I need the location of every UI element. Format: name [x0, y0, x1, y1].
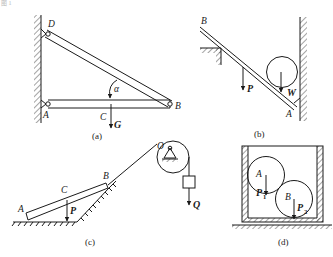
label-a-d: A	[255, 169, 262, 179]
hinge-d-icon	[41, 29, 50, 38]
wall-a	[34, 15, 41, 123]
force-p2-label: P 2	[297, 202, 307, 215]
pin-b-icon	[168, 102, 172, 106]
ground-d	[232, 225, 332, 229]
rope	[108, 144, 157, 185]
force-p1-subscript: 1	[263, 193, 266, 200]
label-d: D	[47, 19, 55, 29]
label-b-c: B	[103, 171, 109, 181]
label-b: B	[175, 101, 181, 111]
weight-q	[183, 176, 195, 188]
caption-c: (c)	[85, 237, 95, 247]
wall-b	[300, 17, 307, 121]
force-p2-subscript: 2	[304, 208, 307, 215]
label-o: O	[157, 141, 164, 151]
ledge-support-b	[200, 48, 221, 65]
force-p-label: P	[247, 83, 254, 94]
caption-a: (a)	[92, 131, 102, 141]
strut-a	[294, 98, 300, 103]
label-b-top: B	[201, 16, 207, 26]
label-alpha: α	[114, 84, 120, 94]
beam-ba	[200, 27, 297, 110]
bar-ab	[48, 100, 170, 108]
force-p-c-label: P	[70, 205, 77, 216]
label-c-c: C	[61, 185, 68, 195]
panel-c	[12, 141, 195, 226]
ball-w	[267, 57, 298, 88]
pulley-support-icon	[162, 146, 178, 162]
force-g-label: G	[114, 119, 122, 130]
label-c: C	[100, 112, 107, 122]
label-a-b: A	[285, 109, 292, 119]
bar-db	[45, 30, 172, 107]
force-p1-label: P 1	[256, 187, 266, 200]
force-p2-letter: P	[297, 202, 304, 213]
label-b-d: B	[285, 192, 291, 202]
statics-figure: 图 1	[0, 0, 333, 257]
force-p1-letter: P	[256, 187, 263, 198]
force-q-label: Q	[193, 199, 200, 210]
caption-d: (d)	[278, 237, 289, 247]
label-a: A	[42, 110, 49, 120]
corner-fragment: 图 1	[1, 0, 12, 7]
panel-b	[200, 17, 307, 121]
hinge-a-icon	[41, 100, 50, 108]
caption-b: (b)	[254, 129, 265, 139]
label-a-c: A	[17, 204, 24, 214]
panel-d	[232, 146, 332, 229]
force-w-label: W	[287, 87, 297, 98]
